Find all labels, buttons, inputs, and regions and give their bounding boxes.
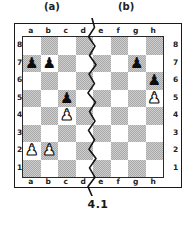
square-f6[interactable] bbox=[111, 72, 129, 90]
file-label-top-h: h bbox=[145, 25, 163, 36]
square-f5[interactable] bbox=[111, 90, 129, 108]
file-label-top-c: c bbox=[57, 25, 75, 36]
square-c5[interactable] bbox=[58, 90, 76, 108]
file-labels-top: abcdefgh bbox=[22, 25, 162, 36]
figure-caption: 4.1 bbox=[0, 198, 196, 211]
square-a4[interactable] bbox=[23, 107, 41, 125]
square-e4[interactable] bbox=[93, 107, 111, 125]
square-g4[interactable] bbox=[128, 107, 146, 125]
square-a2[interactable] bbox=[23, 142, 41, 160]
square-c8[interactable] bbox=[58, 37, 76, 55]
square-c3[interactable] bbox=[58, 125, 76, 143]
square-a5[interactable] bbox=[23, 90, 41, 108]
chessboard[interactable]: ♟♟♟♟♟♟♟♟♟ bbox=[22, 36, 164, 178]
square-e1[interactable] bbox=[93, 160, 111, 178]
file-label-top-b: b bbox=[40, 25, 58, 36]
square-e8[interactable] bbox=[93, 37, 111, 55]
square-b7[interactable] bbox=[41, 55, 59, 73]
file-label-top-e: e bbox=[92, 25, 110, 36]
rank-label-right-7: 7 bbox=[171, 54, 180, 72]
file-label-top-g: g bbox=[127, 25, 145, 36]
square-c4[interactable] bbox=[58, 107, 76, 125]
square-f2[interactable] bbox=[111, 142, 129, 160]
square-b3[interactable] bbox=[41, 125, 59, 143]
square-e3[interactable] bbox=[93, 125, 111, 143]
square-a6[interactable] bbox=[23, 72, 41, 90]
square-b4[interactable] bbox=[41, 107, 59, 125]
square-h6[interactable] bbox=[146, 72, 164, 90]
square-e2[interactable] bbox=[93, 142, 111, 160]
section-label-b: (b) bbox=[118, 1, 134, 12]
file-label-top-a: a bbox=[22, 25, 40, 36]
file-label-top-d: d bbox=[75, 25, 93, 36]
square-h1[interactable] bbox=[146, 160, 164, 178]
square-d2[interactable] bbox=[76, 142, 94, 160]
square-d5[interactable] bbox=[76, 90, 94, 108]
square-b5[interactable] bbox=[41, 90, 59, 108]
square-h3[interactable] bbox=[146, 125, 164, 143]
square-b1[interactable] bbox=[41, 160, 59, 178]
square-g3[interactable] bbox=[128, 125, 146, 143]
square-c7[interactable] bbox=[58, 55, 76, 73]
section-labels: (a) (b) bbox=[0, 1, 196, 19]
square-b8[interactable] bbox=[41, 37, 59, 55]
square-f4[interactable] bbox=[111, 107, 129, 125]
square-b2[interactable] bbox=[41, 142, 59, 160]
square-g2[interactable] bbox=[128, 142, 146, 160]
square-g8[interactable] bbox=[128, 37, 146, 55]
square-d8[interactable] bbox=[76, 37, 94, 55]
square-e5[interactable] bbox=[93, 90, 111, 108]
square-d1[interactable] bbox=[76, 160, 94, 178]
square-h5[interactable] bbox=[146, 90, 164, 108]
rank-label-right-5: 5 bbox=[171, 89, 180, 107]
section-label-a: (a) bbox=[44, 1, 60, 12]
rank-labels-right: 87654321 bbox=[171, 36, 180, 176]
square-f3[interactable] bbox=[111, 125, 129, 143]
square-c2[interactable] bbox=[58, 142, 76, 160]
square-e6[interactable] bbox=[93, 72, 111, 90]
square-a3[interactable] bbox=[23, 125, 41, 143]
square-f8[interactable] bbox=[111, 37, 129, 55]
square-f7[interactable] bbox=[111, 55, 129, 73]
square-d7[interactable] bbox=[76, 55, 94, 73]
square-a1[interactable] bbox=[23, 160, 41, 178]
square-f1[interactable] bbox=[111, 160, 129, 178]
rank-label-right-4: 4 bbox=[171, 106, 180, 124]
square-h4[interactable] bbox=[146, 107, 164, 125]
file-label-top-f: f bbox=[110, 25, 128, 36]
rank-label-right-2: 2 bbox=[171, 141, 180, 159]
square-a7[interactable] bbox=[23, 55, 41, 73]
rank-label-right-3: 3 bbox=[171, 124, 180, 142]
square-g6[interactable] bbox=[128, 72, 146, 90]
square-d4[interactable] bbox=[76, 107, 94, 125]
square-h7[interactable] bbox=[146, 55, 164, 73]
square-b6[interactable] bbox=[41, 72, 59, 90]
square-d6[interactable] bbox=[76, 72, 94, 90]
rank-label-right-1: 1 bbox=[171, 159, 180, 177]
square-g1[interactable] bbox=[128, 160, 146, 178]
square-h8[interactable] bbox=[146, 37, 164, 55]
rank-label-right-6: 6 bbox=[171, 71, 180, 89]
square-c1[interactable] bbox=[58, 160, 76, 178]
square-e7[interactable] bbox=[93, 55, 111, 73]
square-a8[interactable] bbox=[23, 37, 41, 55]
square-g7[interactable] bbox=[128, 55, 146, 73]
square-c6[interactable] bbox=[58, 72, 76, 90]
square-d3[interactable] bbox=[76, 125, 94, 143]
rank-label-right-8: 8 bbox=[171, 36, 180, 54]
square-h2[interactable] bbox=[146, 142, 164, 160]
square-g5[interactable] bbox=[128, 90, 146, 108]
